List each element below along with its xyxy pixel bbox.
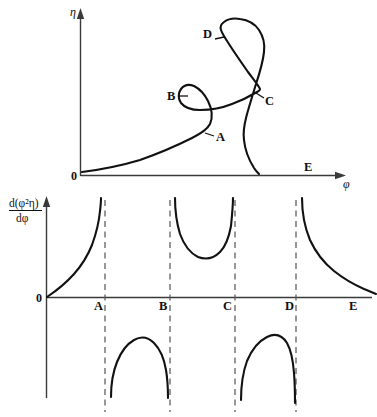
annotation-point-e: E <box>304 160 312 174</box>
annotation-point-c: C <box>256 93 274 108</box>
axis-tick-label-d: D <box>285 299 294 313</box>
axis-tick-label-c: C <box>223 299 232 313</box>
top-panel-x-axis-label: φ <box>343 177 350 191</box>
annotation-point-a: A <box>205 130 225 144</box>
annotation-label-e: E <box>304 160 312 174</box>
top-panel-y-axis-label: η <box>70 5 76 19</box>
derivative-branch-0-to-a <box>47 198 101 297</box>
axis-tick-label-e: E <box>349 299 357 313</box>
top-panel-origin-label: 0 <box>71 169 77 183</box>
annotation-point-b: B <box>167 89 188 103</box>
derivative-branch-a-to-b <box>111 338 168 398</box>
scientific-figure: η φ 0 A B C <box>0 0 377 417</box>
y-axis-label-denominator: dφ <box>16 212 29 225</box>
bottom-panel: d(φ²η) dφ 0 A B C <box>9 196 376 412</box>
derivative-branch-c-to-d <box>241 335 295 403</box>
annotation-label-c: C <box>265 94 274 108</box>
y-axis-label-numerator: d(φ²η) <box>9 197 39 210</box>
bottom-panel-origin-label: 0 <box>36 291 42 305</box>
top-panel: η φ 0 A B C <box>70 5 350 191</box>
top-panel-y-axis <box>77 8 84 176</box>
derivative-branch-b-to-c <box>175 198 233 258</box>
annotation-label-b: B <box>167 89 175 103</box>
axis-tick-label-b: B <box>159 299 167 313</box>
annotation-label-d: D <box>203 27 212 41</box>
bottom-panel-y-axis-label: d(φ²η) dφ <box>9 197 42 225</box>
axis-tick-label-a: A <box>94 299 103 313</box>
derivative-branch-d-to-e <box>302 198 376 294</box>
annotation-label-a: A <box>216 130 225 144</box>
